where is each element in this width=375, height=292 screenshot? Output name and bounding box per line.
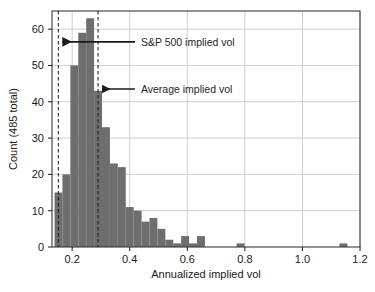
x-axis-tick-label: 0.4	[122, 253, 137, 265]
y-axis-tick-label: 0	[38, 241, 44, 253]
histogram-bar	[126, 207, 134, 247]
y-axis-title: Count (485 total)	[7, 88, 19, 170]
histogram-bar	[62, 174, 70, 247]
x-axis-tick-label: 0.8	[237, 253, 252, 265]
y-axis-tick-label: 10	[32, 205, 44, 217]
histogram-bar	[86, 18, 94, 247]
histogram-bar	[181, 236, 189, 247]
x-axis-tick-label: 1.0	[295, 253, 310, 265]
histogram-bar	[165, 240, 173, 247]
histogram-chart: 0.20.40.60.81.01.20102030405060Annualize…	[0, 0, 375, 292]
y-axis-tick-label: 40	[32, 96, 44, 108]
histogram-bar	[55, 193, 63, 247]
y-axis-tick-label: 20	[32, 168, 44, 180]
histogram-bar	[102, 127, 110, 247]
histogram-bar	[118, 167, 126, 247]
y-axis-tick-label: 50	[32, 59, 44, 71]
annotation-label: Average implied vol	[141, 83, 232, 95]
histogram-bar	[197, 236, 205, 247]
x-axis-tick-label: 0.2	[65, 253, 80, 265]
histogram-bar	[150, 218, 158, 247]
y-axis-tick-label: 30	[32, 132, 44, 144]
histogram-bar	[157, 229, 165, 247]
y-axis-tick-label: 60	[32, 23, 44, 35]
histogram-bar	[78, 33, 86, 247]
histogram-bar	[110, 163, 118, 247]
histogram-bar	[70, 65, 78, 247]
annotation-label: S&P 500 implied vol	[141, 36, 235, 48]
x-axis-title: Annualized implied vol	[151, 268, 260, 280]
chart-canvas: 0.20.40.60.81.01.20102030405060Annualize…	[0, 0, 375, 292]
histogram-bar	[142, 222, 150, 247]
x-axis-tick-label: 1.2	[352, 253, 367, 265]
x-axis-tick-label: 0.6	[180, 253, 195, 265]
histogram-bar	[134, 211, 142, 247]
